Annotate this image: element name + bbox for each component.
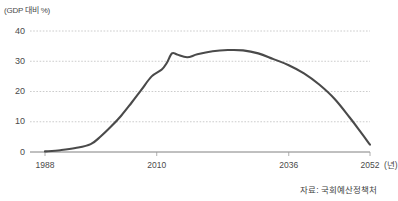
data-series-group bbox=[45, 50, 370, 151]
y-tick-label: 10 bbox=[3, 117, 25, 126]
x-tick-label: 2036 bbox=[269, 161, 309, 170]
source-note: 자료: 국회예산정책처 bbox=[300, 185, 377, 195]
series-line bbox=[45, 50, 370, 151]
gridlines-group bbox=[30, 31, 370, 152]
x-tick-label: 2010 bbox=[137, 161, 177, 170]
x-tick-label: 1988 bbox=[25, 161, 65, 170]
y-tick-label: 20 bbox=[3, 87, 25, 96]
y-tick-label: 40 bbox=[3, 27, 25, 36]
x-axis-tick-marks bbox=[45, 152, 370, 156]
x-axis-unit-label: (년) bbox=[384, 161, 398, 170]
y-tick-label: 30 bbox=[3, 57, 25, 66]
y-tick-label: 0 bbox=[3, 148, 25, 157]
